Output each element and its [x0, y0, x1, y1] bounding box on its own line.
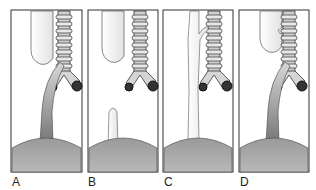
panel-b: [88, 10, 158, 172]
panel-label-c: C: [164, 176, 173, 188]
panel-label-d: D: [240, 176, 249, 188]
stomach: [89, 138, 157, 172]
stomach: [12, 138, 81, 172]
diagram-canvas: [0, 0, 316, 190]
stomach: [164, 138, 232, 172]
panel-label-a: A: [12, 176, 20, 188]
panel-c: [163, 10, 233, 172]
panel-d: [239, 10, 309, 172]
panel-label-b: B: [88, 176, 96, 188]
stomach: [240, 138, 308, 172]
upper-esophageal-pouch: [102, 11, 124, 62]
panel-a: [11, 10, 82, 172]
upper-esophageal-pouch: [31, 11, 53, 64]
